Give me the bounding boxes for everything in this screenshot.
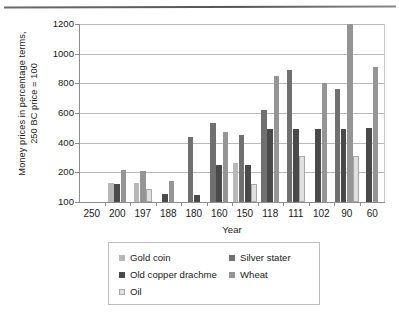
bar <box>373 67 379 202</box>
bar <box>188 137 194 202</box>
bar <box>233 163 239 202</box>
bar <box>293 129 299 202</box>
x-tick-label: 90 <box>334 208 360 219</box>
legend-item: Old copper drachme <box>119 270 217 280</box>
bar <box>274 76 280 202</box>
y-tick-label: 1200 <box>34 19 74 29</box>
bar <box>140 171 146 202</box>
x-tick-label: 160 <box>207 208 233 219</box>
legend-swatch-icon <box>229 255 235 261</box>
bar <box>251 184 257 202</box>
legend-label: Oil <box>130 287 142 297</box>
x-tick-mark <box>258 202 259 206</box>
bar <box>162 194 168 202</box>
x-tick-mark <box>309 202 310 206</box>
bar <box>261 110 267 202</box>
legend-swatch-icon <box>229 272 235 278</box>
bar <box>347 24 353 202</box>
legend-item: Wheat <box>229 270 268 280</box>
y-tick-mark <box>75 113 79 114</box>
x-tick-label: 118 <box>258 208 284 219</box>
bar <box>216 165 222 202</box>
x-tick-label: 111 <box>283 208 309 219</box>
x-tick-label: 200 <box>105 208 131 219</box>
bar-chart-figure: Money prices in percentage terms, 250 BC… <box>0 14 399 317</box>
x-tick-mark <box>181 202 182 206</box>
gridline <box>80 54 384 55</box>
x-tick-mark <box>207 202 208 206</box>
y-tick-label: 400 <box>34 138 74 148</box>
bar <box>335 89 341 202</box>
x-tick-label: 188 <box>156 208 182 219</box>
bar <box>353 156 359 202</box>
bar <box>146 189 152 202</box>
x-tick-mark <box>283 202 284 206</box>
x-tick-mark <box>360 202 361 206</box>
gridline <box>80 83 384 84</box>
bar <box>239 135 245 202</box>
x-tick-label: 197 <box>130 208 156 219</box>
x-tick-mark <box>156 202 157 206</box>
bar <box>245 165 251 202</box>
bar <box>134 183 140 202</box>
page-divider-rule <box>4 5 396 8</box>
y-tick-mark <box>75 143 79 144</box>
bar <box>299 156 305 202</box>
gridline <box>80 24 384 25</box>
legend-label: Old copper drachme <box>130 270 217 280</box>
y-tick-label: 600 <box>34 108 74 118</box>
bar <box>169 181 175 202</box>
y-tick-label: 100 <box>34 197 74 207</box>
x-axis-title: Year <box>79 224 385 235</box>
y-tick-mark <box>75 54 79 55</box>
x-tick-label: 150 <box>232 208 258 219</box>
y-tick-label: 1000 <box>34 49 74 59</box>
bar <box>194 195 200 202</box>
x-tick-mark <box>105 202 106 206</box>
legend-swatch-icon <box>119 255 125 261</box>
legend-item: Oil <box>119 287 142 297</box>
bar <box>108 183 114 202</box>
y-tick-mark <box>75 202 79 203</box>
legend-swatch-icon <box>119 272 125 278</box>
x-tick-mark <box>334 202 335 206</box>
bar <box>121 170 127 202</box>
bar <box>341 129 347 202</box>
y-tick-mark <box>75 172 79 173</box>
x-tick-label: 60 <box>360 208 386 219</box>
x-tick-mark <box>130 202 131 206</box>
legend-label: Silver stater <box>240 253 291 263</box>
x-tick-label: 102 <box>309 208 335 219</box>
chart-legend: Gold coinSilver staterOld copper drachme… <box>108 242 320 305</box>
bar <box>287 70 293 202</box>
y-tick-mark <box>75 24 79 25</box>
x-tick-mark <box>232 202 233 206</box>
bar <box>315 129 321 202</box>
bar <box>322 83 328 202</box>
bar <box>267 129 273 202</box>
bar <box>210 123 216 202</box>
legend-item: Silver stater <box>229 253 291 263</box>
legend-label: Gold coin <box>130 253 171 263</box>
y-tick-label: 800 <box>34 78 74 88</box>
y-tick-label: 200 <box>34 167 74 177</box>
legend-swatch-icon <box>119 289 125 295</box>
bar <box>114 184 120 202</box>
legend-label: Wheat <box>240 270 268 280</box>
bar <box>366 128 372 202</box>
x-tick-label: 180 <box>181 208 207 219</box>
y-tick-mark <box>75 83 79 84</box>
legend-item: Gold coin <box>119 253 171 263</box>
bar <box>223 132 229 202</box>
x-tick-label: 250 <box>79 208 105 219</box>
